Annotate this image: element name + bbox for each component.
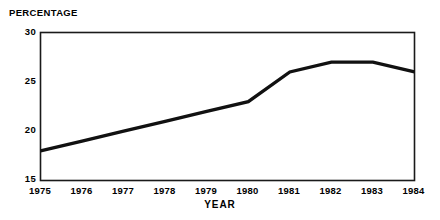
x-tick-label-1976: 1976 xyxy=(60,185,104,196)
x-tick-label-1983: 1983 xyxy=(350,185,394,196)
chart-figure: PERCENTAGE 30 25 20 15 1975 1976 1977 19… xyxy=(0,0,440,220)
x-tick-label-1980: 1980 xyxy=(226,185,270,196)
x-tick-label-1984: 1984 xyxy=(392,185,436,196)
x-axis-title: YEAR xyxy=(0,199,440,211)
x-tick-label-1975: 1975 xyxy=(18,185,62,196)
y-tick-label-30: 30 xyxy=(8,27,36,37)
y-tick-label-20: 20 xyxy=(8,125,36,135)
x-tick-label-1979: 1979 xyxy=(184,185,228,196)
x-tick-label-1977: 1977 xyxy=(101,185,145,196)
x-tick-label-1982: 1982 xyxy=(309,185,353,196)
y-tick-label-15: 15 xyxy=(8,174,36,184)
y-tick-label-25: 25 xyxy=(8,76,36,86)
x-tick-label-1978: 1978 xyxy=(143,185,187,196)
x-tick-label-1981: 1981 xyxy=(267,185,311,196)
